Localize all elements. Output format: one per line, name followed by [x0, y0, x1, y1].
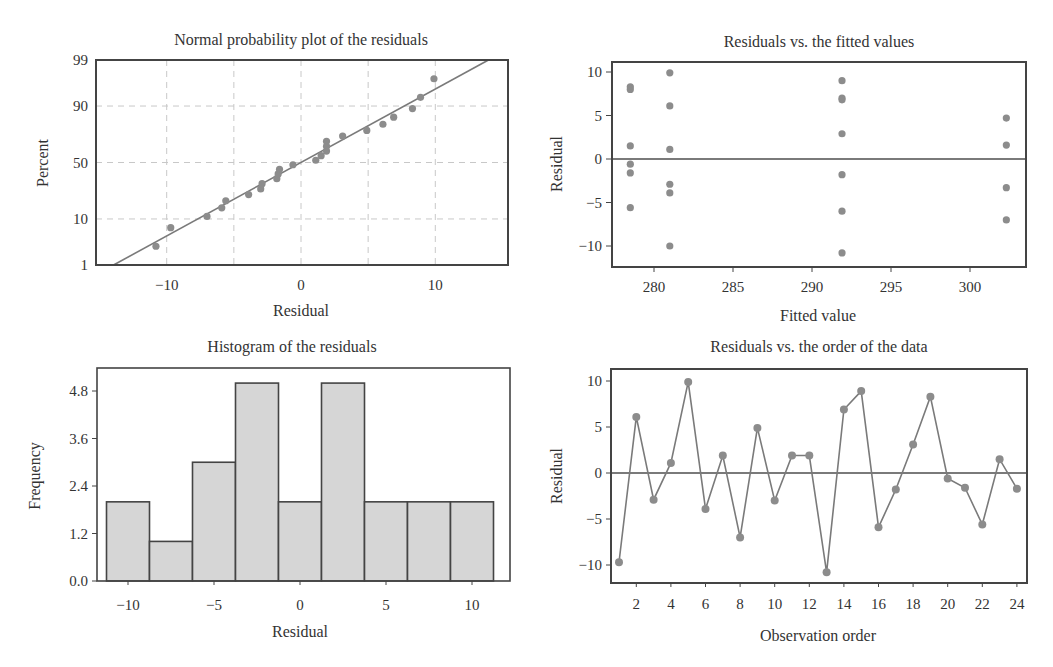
fitted-plot-point: [838, 130, 845, 137]
x-tick-label: 300: [959, 279, 982, 295]
x-tick-label: 12: [802, 596, 817, 612]
x-tick-label: 10: [428, 277, 443, 293]
fit-line: [114, 60, 489, 265]
y-tick-label: 1: [81, 257, 89, 273]
fitted-plot-frame: [612, 62, 1026, 267]
x-tick-label: 22: [975, 596, 990, 612]
order-plot-point: [875, 523, 883, 531]
order-plot-point: [771, 497, 779, 505]
order-plot-point: [996, 455, 1004, 463]
normal-plot-point: [417, 94, 424, 101]
order-plot-point: [684, 378, 692, 386]
normal-plot-point: [430, 75, 437, 82]
x-tick-label: 24: [1009, 596, 1025, 612]
histogram-bar: [107, 502, 150, 581]
histogram-bar: [236, 383, 279, 581]
y-tick-label: −5: [586, 511, 602, 527]
order-plot-point: [961, 484, 969, 492]
normal-plot-point: [289, 161, 296, 168]
histogram-bar: [193, 462, 236, 581]
normal-plot-point: [409, 105, 416, 112]
x-tick-label: 2: [633, 596, 641, 612]
x-tick-label: 295: [880, 279, 903, 295]
histogram-bar: [150, 541, 193, 581]
order-line: [619, 382, 1017, 572]
residuals-vs-order-plot: Residuals vs. the order of the data −10−…: [548, 338, 1027, 644]
residuals-vs-fitted-plot: Residuals vs. the fitted values −10−5051…: [548, 33, 1026, 324]
x-tick-label: 280: [643, 279, 666, 295]
x-tick-label: 6: [702, 596, 710, 612]
normal-plot-fit-line: [114, 60, 489, 265]
y-tick-label: 3.6: [69, 431, 88, 447]
fitted-plot-point: [627, 169, 634, 176]
order-plot-point: [719, 452, 727, 460]
normal-plot-point: [276, 166, 283, 173]
order-plot-x-label: Observation order: [760, 627, 877, 644]
histogram-y-ticks: 0.01.22.43.64.8: [69, 383, 97, 589]
y-tick-label: 50: [73, 155, 88, 171]
normal-plot-y-ticks: 110509099: [73, 52, 88, 273]
normal-plot-y-label: Percent: [34, 138, 51, 187]
histogram-x-label: Residual: [272, 623, 329, 640]
normal-plot-point: [323, 138, 330, 145]
order-plot-point: [926, 393, 934, 401]
order-plot-y-label: Residual: [548, 447, 565, 504]
y-tick-label: 2.4: [69, 478, 88, 494]
x-tick-label: −10: [155, 277, 178, 293]
fitted-plot-y-ticks: −10−50510: [579, 64, 612, 254]
x-tick-label: 0: [297, 277, 305, 293]
fitted-plot-point: [666, 189, 673, 196]
fitted-plot-point: [838, 171, 845, 178]
x-tick-label: 14: [836, 596, 852, 612]
y-tick-label: 10: [73, 211, 88, 227]
order-plot-points: [615, 378, 1021, 576]
order-plot-point: [823, 568, 831, 576]
histogram-bars: [107, 383, 494, 581]
fitted-plot-point: [627, 204, 634, 211]
fitted-plot-x-label: Fitted value: [780, 307, 856, 324]
x-tick-label: 10: [767, 596, 782, 612]
fitted-plot-point: [838, 96, 845, 103]
y-tick-label: 90: [73, 98, 88, 114]
normal-plot-point: [245, 191, 252, 198]
fitted-plot-point: [627, 142, 634, 149]
x-tick-label: 16: [871, 596, 887, 612]
fitted-plot-point: [627, 161, 634, 168]
x-tick-label: 4: [667, 596, 675, 612]
fitted-plot-point: [666, 242, 673, 249]
order-plot-point: [978, 521, 986, 529]
x-tick-label: 10: [465, 597, 480, 613]
normal-plot-x-ticks: −10010: [155, 277, 443, 293]
histogram-bar: [322, 383, 365, 581]
fitted-plot-title: Residuals vs. the fitted values: [724, 33, 915, 50]
order-plot-frame: [611, 369, 1027, 583]
order-plot-point: [650, 496, 658, 504]
x-tick-label: 290: [801, 279, 824, 295]
order-plot-point: [840, 406, 848, 414]
order-plot-point: [944, 475, 952, 483]
fitted-plot-point: [1003, 115, 1010, 122]
order-plot-point: [857, 387, 865, 395]
y-tick-label: −10: [579, 238, 602, 254]
normal-plot-title: Normal probability plot of the residuals: [174, 31, 428, 49]
y-tick-label: 5: [595, 419, 603, 435]
x-tick-label: 8: [736, 596, 744, 612]
order-plot-point: [702, 505, 710, 513]
y-tick-label: 0.0: [69, 573, 88, 589]
fitted-plot-point: [838, 249, 845, 256]
fitted-plot-x-ticks: 280285290295300: [643, 267, 982, 295]
y-tick-label: −10: [579, 557, 602, 573]
histogram-bar: [408, 502, 451, 581]
order-plot-point: [909, 440, 917, 448]
order-plot-point: [615, 558, 623, 566]
x-tick-label: −5: [206, 597, 222, 613]
fitted-plot-points: [627, 69, 1010, 256]
normal-plot-point: [152, 243, 159, 250]
histogram-bar: [365, 502, 408, 581]
x-tick-label: 5: [382, 597, 390, 613]
order-plot-x-ticks: 24681012141618202224: [633, 583, 1025, 612]
x-tick-label: 0: [296, 597, 304, 613]
order-plot-title: Residuals vs. the order of the data: [710, 338, 927, 355]
y-tick-label: 1.2: [69, 526, 88, 542]
y-tick-label: 4.8: [69, 383, 88, 399]
